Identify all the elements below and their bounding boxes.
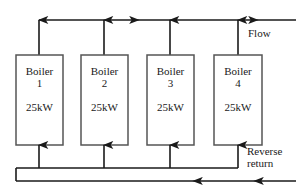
boiler-box-1 [16, 55, 63, 145]
diagram-canvas [0, 0, 302, 193]
reverse-return-boiler-diagram: Boiler 1 25kW Boiler 2 25kW Boiler 3 25k… [0, 0, 302, 193]
boiler-box-3 [147, 55, 194, 145]
boiler-box-2 [81, 55, 128, 145]
boiler-box-4 [214, 55, 262, 145]
reverse-return-main [16, 168, 296, 181]
